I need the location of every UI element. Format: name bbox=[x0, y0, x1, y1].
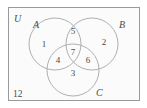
universe-label: U bbox=[14, 13, 22, 24]
set-label-b: B bbox=[119, 19, 125, 30]
region-count-a-only: 1 bbox=[42, 39, 47, 49]
outside-count-label: 12 bbox=[13, 89, 23, 99]
set-label-a: A bbox=[32, 19, 40, 30]
region-count-b-and-c: 6 bbox=[86, 55, 91, 65]
region-count-a-and-c: 4 bbox=[56, 55, 61, 65]
region-count-b-only: 2 bbox=[102, 37, 107, 47]
venn-diagram-canvas: U A B C 1 2 3 4 5 6 7 12 bbox=[0, 0, 147, 108]
set-label-c: C bbox=[96, 87, 103, 98]
region-count-a-and-b-and-c: 7 bbox=[71, 47, 76, 57]
region-count-c-only: 3 bbox=[71, 68, 76, 78]
region-count-a-and-b: 5 bbox=[71, 26, 76, 36]
venn-diagram-figure: U A B C 1 2 3 4 5 6 7 12 bbox=[0, 0, 147, 108]
